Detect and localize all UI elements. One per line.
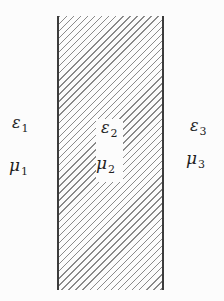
mu-3-subscript: 3 — [198, 158, 205, 171]
epsilon-3-symbol: ε — [190, 116, 199, 135]
label-mu-2: μ2 — [96, 155, 115, 172]
mu-2-symbol: μ — [96, 153, 107, 173]
mu-1-symbol: μ — [9, 155, 20, 175]
label-epsilon-2: ε2 — [101, 120, 118, 136]
epsilon-1-subscript: 1 — [22, 122, 29, 135]
label-mu-1: μ1 — [9, 157, 28, 174]
mu-1-subscript: 1 — [21, 165, 28, 178]
mu-3-symbol: μ — [186, 148, 197, 168]
epsilon-2-subscript: 2 — [111, 127, 118, 140]
label-epsilon-1: ε1 — [12, 115, 29, 131]
epsilon-3-subscript: 3 — [200, 125, 207, 138]
mu-2-subscript: 2 — [108, 163, 115, 176]
epsilon-2-symbol: ε — [101, 118, 110, 137]
label-epsilon-3: ε3 — [190, 118, 207, 134]
epsilon-1-symbol: ε — [12, 113, 21, 132]
label-mu-3: μ3 — [186, 150, 205, 167]
dielectric-slab-figure: ε1 μ1 ε2 μ2 ε3 μ3 — [0, 0, 224, 301]
